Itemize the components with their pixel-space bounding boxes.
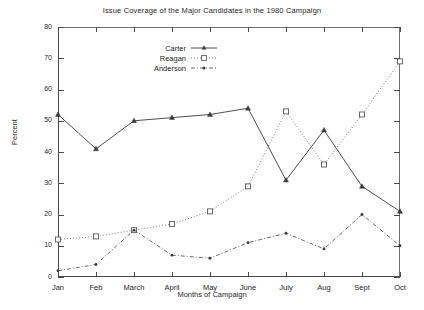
data-point-reagan bbox=[360, 112, 365, 117]
data-point-reagan bbox=[94, 234, 99, 239]
data-point-anderson bbox=[133, 229, 136, 232]
series-line-carter bbox=[58, 108, 400, 211]
legend-label-carter: Carter bbox=[120, 44, 191, 53]
data-point-carter bbox=[56, 112, 61, 117]
data-point-carter bbox=[398, 209, 403, 214]
chart-legend: Carter Reagan Anderson bbox=[120, 43, 217, 73]
data-point-reagan bbox=[208, 209, 213, 214]
data-point-reagan bbox=[322, 162, 327, 167]
data-point-anderson bbox=[171, 254, 174, 257]
chart-screenshot: Issue Coverage of the Major Candidates i… bbox=[0, 0, 424, 310]
data-point-carter bbox=[246, 106, 251, 111]
legend-item-carter: Carter bbox=[120, 43, 217, 53]
legend-label-reagan: Reagan bbox=[120, 54, 191, 63]
data-point-anderson bbox=[95, 263, 98, 266]
legend-item-reagan: Reagan bbox=[120, 53, 217, 63]
data-point-anderson bbox=[285, 232, 288, 235]
data-point-anderson bbox=[361, 213, 364, 216]
data-point-anderson bbox=[399, 244, 402, 247]
x-axis-title: Months of Campaign bbox=[0, 290, 424, 299]
data-point-reagan bbox=[246, 184, 251, 189]
data-point-anderson bbox=[247, 241, 250, 244]
legend-item-anderson: Anderson bbox=[120, 63, 217, 73]
data-point-reagan bbox=[284, 109, 289, 114]
series-line-anderson bbox=[58, 215, 400, 271]
data-point-anderson bbox=[323, 247, 326, 250]
data-point-reagan bbox=[170, 221, 175, 226]
data-point-reagan bbox=[56, 237, 61, 242]
data-point-reagan bbox=[398, 59, 403, 64]
legend-key-carter-icon bbox=[191, 43, 217, 53]
legend-key-reagan-icon bbox=[191, 53, 217, 63]
data-point-anderson bbox=[209, 257, 212, 260]
series-line-reagan bbox=[58, 61, 400, 239]
legend-key-anderson-icon bbox=[191, 63, 217, 73]
data-point-anderson bbox=[57, 269, 60, 272]
legend-label-anderson: Anderson bbox=[120, 64, 191, 73]
data-point-carter bbox=[322, 128, 327, 133]
